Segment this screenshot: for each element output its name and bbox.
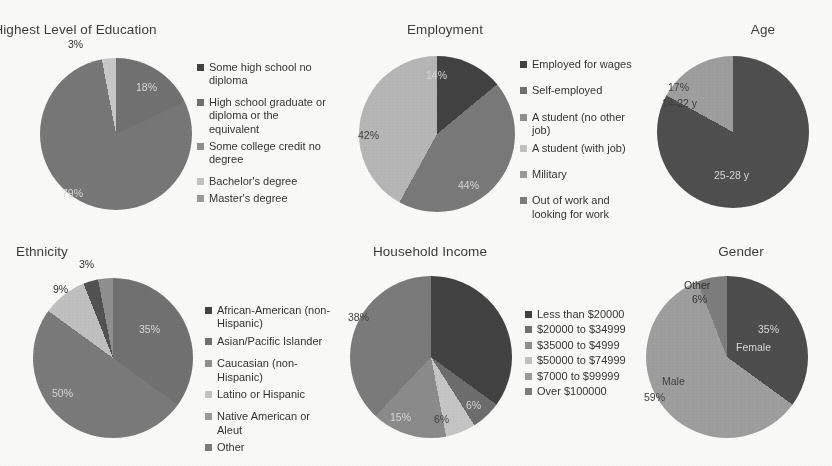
chart-panel-employment: Employment 14% 44% 42% Employed for wage… bbox=[340, 8, 640, 238]
legend-label: High school graduate or diploma or the e… bbox=[209, 96, 327, 136]
data-label-education-18pct: 18% bbox=[136, 82, 157, 93]
legend-swatch-icon bbox=[525, 357, 532, 364]
legend-item: Asian/Pacific Islander bbox=[205, 335, 335, 348]
legend-item: Master's degree bbox=[197, 192, 327, 205]
data-label-education-3pct: 3% bbox=[68, 39, 83, 50]
pie-age bbox=[657, 56, 809, 208]
data-label-employment-14pct: 14% bbox=[426, 70, 447, 81]
legend-label: $20000 to $34999 bbox=[537, 323, 626, 336]
legend-label: Caucasian (non-Hispanic) bbox=[217, 357, 335, 384]
chart-title-age: Age bbox=[667, 22, 832, 37]
legend-employment: Employed for wages Self-employed A stude… bbox=[520, 58, 640, 225]
legend-swatch-icon bbox=[520, 61, 527, 68]
data-label-gender-female: Female bbox=[736, 342, 771, 353]
legend-swatch-icon bbox=[205, 307, 212, 314]
chart-panel-ethnicity: Ethnicity 3% 9% 35% 50% African-American… bbox=[0, 234, 340, 466]
legend-label: Latino or Hispanic bbox=[217, 388, 305, 401]
legend-item: Self-employed bbox=[520, 84, 640, 97]
legend-item: $50000 to $74999 bbox=[525, 354, 645, 367]
legend-swatch-icon bbox=[525, 311, 532, 318]
legend-swatch-icon bbox=[520, 197, 527, 204]
legend-item: Native American or Aleut bbox=[205, 410, 335, 437]
data-label-income-6pct-b: 6% bbox=[466, 400, 481, 411]
pie-gender bbox=[646, 276, 808, 438]
legend-household-income: Less than $20000 $20000 to $34999 $35000… bbox=[525, 308, 645, 400]
legend-label: A student (no other job) bbox=[532, 111, 640, 138]
data-label-employment-44pct: 44% bbox=[458, 180, 479, 191]
pie-slices-gender bbox=[646, 276, 808, 438]
data-label-gender-male: Male bbox=[662, 376, 685, 387]
legend-item: A student (with job) bbox=[520, 142, 640, 155]
legend-item: $35000 to $4999 bbox=[525, 339, 645, 352]
legend-education: Some high school no diploma High school … bbox=[197, 61, 327, 210]
legend-swatch-icon bbox=[197, 99, 204, 106]
data-label-ethnicity-3pct: 3% bbox=[79, 259, 94, 270]
legend-item: Employed for wages bbox=[520, 58, 640, 71]
legend-swatch-icon bbox=[525, 342, 532, 349]
legend-item: Less than $20000 bbox=[525, 308, 645, 321]
legend-swatch-icon bbox=[205, 338, 212, 345]
pie-slices-ethnicity bbox=[33, 278, 193, 438]
legend-swatch-icon bbox=[525, 326, 532, 333]
pie-household-income bbox=[350, 276, 512, 438]
legend-label: $7000 to $99999 bbox=[537, 370, 620, 383]
data-label-gender-other-pct: 6% bbox=[692, 294, 707, 305]
legend-swatch-icon bbox=[520, 87, 527, 94]
legend-swatch-icon bbox=[197, 64, 204, 71]
legend-label: Native American or Aleut bbox=[217, 410, 335, 437]
chart-title-household-income: Household Income bbox=[280, 244, 580, 259]
legend-label: Bachelor's degree bbox=[209, 175, 297, 188]
figure-canvas: Highest Level of Education 3% 18% 79% So… bbox=[0, 0, 832, 466]
legend-label: Employed for wages bbox=[532, 58, 632, 71]
data-label-ethnicity-35pct: 35% bbox=[139, 324, 160, 335]
legend-item: Caucasian (non-Hispanic) bbox=[205, 357, 335, 384]
legend-swatch-icon bbox=[205, 360, 212, 367]
legend-item: Out of work and looking for work bbox=[520, 194, 640, 221]
legend-item: Military bbox=[520, 168, 640, 181]
legend-label: Military bbox=[532, 168, 567, 181]
legend-label: Some high school no diploma bbox=[209, 61, 327, 88]
legend-ethnicity: African-American (non-Hispanic) Asian/Pa… bbox=[205, 304, 335, 459]
data-label-gender-other: Other bbox=[684, 280, 710, 291]
data-label-age-25-28y: 25-28 y bbox=[714, 170, 749, 181]
legend-swatch-icon bbox=[197, 178, 204, 185]
legend-label: Other bbox=[217, 441, 245, 454]
chart-panel-household-income: Household Income 38% 15% 6% 6% Less than… bbox=[340, 234, 640, 466]
legend-label: Master's degree bbox=[209, 192, 288, 205]
data-label-ethnicity-9pct: 9% bbox=[53, 284, 68, 295]
legend-label: Asian/Pacific Islander bbox=[217, 335, 322, 348]
data-label-age-17pct: 17% bbox=[668, 82, 689, 93]
legend-item: Some college credit no degree bbox=[197, 140, 327, 167]
chart-panel-education: Highest Level of Education 3% 18% 79% So… bbox=[0, 8, 340, 238]
legend-swatch-icon bbox=[525, 373, 532, 380]
legend-label: Over $100000 bbox=[537, 385, 607, 398]
data-label-income-38pct: 38% bbox=[348, 312, 369, 323]
pie-slices-age bbox=[657, 56, 809, 208]
pie-ethnicity bbox=[33, 278, 193, 438]
chart-title-employment: Employment bbox=[295, 22, 595, 37]
legend-label: A student (with job) bbox=[532, 142, 626, 155]
data-label-income-6pct-a: 6% bbox=[434, 414, 449, 425]
legend-label: Out of work and looking for work bbox=[532, 194, 640, 221]
legend-item: Over $100000 bbox=[525, 385, 645, 398]
legend-swatch-icon bbox=[205, 413, 212, 420]
legend-swatch-icon bbox=[197, 195, 204, 202]
legend-item: $7000 to $99999 bbox=[525, 370, 645, 383]
legend-swatch-icon bbox=[520, 114, 527, 121]
data-label-income-15pct: 15% bbox=[390, 412, 411, 423]
legend-item: High school graduate or diploma or the e… bbox=[197, 96, 327, 136]
chart-title-education: Highest Level of Education bbox=[0, 22, 245, 37]
legend-swatch-icon bbox=[205, 444, 212, 451]
legend-label: Less than $20000 bbox=[537, 308, 624, 321]
legend-item: Some high school no diploma bbox=[197, 61, 327, 88]
chart-panel-age: Age 17% 14-22 y 25-28 y bbox=[640, 8, 832, 238]
legend-item: African-American (non-Hispanic) bbox=[205, 304, 335, 331]
legend-swatch-icon bbox=[520, 145, 527, 152]
data-label-gender-male-pct: 59% bbox=[644, 392, 665, 403]
legend-swatch-icon bbox=[205, 391, 212, 398]
chart-title-ethnicity: Ethnicity bbox=[0, 244, 212, 259]
legend-swatch-icon bbox=[197, 143, 204, 150]
legend-swatch-icon bbox=[520, 171, 527, 178]
legend-swatch-icon bbox=[525, 388, 532, 395]
pie-slices-household-income bbox=[350, 276, 512, 438]
